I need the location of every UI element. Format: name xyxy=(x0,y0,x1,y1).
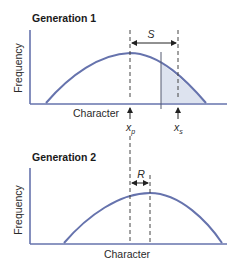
selection-differential-label: S xyxy=(147,28,154,40)
generation-2-panel: Generation 2 R Character Frequency xyxy=(12,151,227,260)
generation-1-title: Generation 1 xyxy=(32,12,96,24)
x-axis-label-gen2: Character xyxy=(104,248,151,260)
generation-2-title: Generation 2 xyxy=(32,151,96,163)
response-label: R xyxy=(137,168,145,180)
y-axis-label-gen2: Frequency xyxy=(12,184,24,234)
distribution-curve-gen2 xyxy=(64,193,222,243)
selected-region-shade xyxy=(161,63,206,103)
xs-label: xs xyxy=(173,121,183,135)
generation-1-panel: Generation 1 S xp xs Character Frequency xyxy=(12,12,227,136)
x-axis-label-gen1: Character xyxy=(73,107,120,119)
selection-response-diagram: Generation 1 S xp xs Character Frequency… xyxy=(0,0,239,268)
xp-label: xp xyxy=(125,121,135,136)
y-axis-label-gen1: Frequency xyxy=(12,42,24,92)
